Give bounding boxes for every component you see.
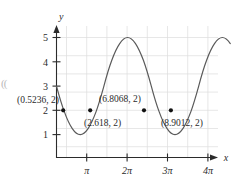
x-tick-label-3pi: 3π	[161, 165, 173, 176]
y-tick-label-2: 2	[43, 105, 48, 116]
data-point-3	[142, 108, 146, 112]
x-tick-label-pi: π	[84, 165, 90, 176]
y-tick-label-1: 1	[43, 129, 48, 140]
sine-curve	[57, 38, 231, 135]
y-axis	[53, 25, 59, 158]
point-label-2: (2.618, 2)	[84, 118, 121, 129]
trig-graph-figure: ((	[0, 0, 238, 185]
point-label-1: (0.5236, 2)	[17, 95, 59, 106]
x-axis	[57, 154, 219, 160]
grid-horizontal-lines	[56, 38, 218, 147]
point-label-3: (6.8068, 2)	[99, 94, 141, 105]
y-axis-tick-labels: 5 4 3 2 1	[43, 32, 48, 140]
data-point-4	[169, 108, 173, 112]
x-axis-tick-labels: π 2π 3π 4π	[84, 165, 214, 176]
y-axis-arrowhead	[53, 25, 59, 33]
x-tick-label-2pi: 2π	[122, 165, 133, 176]
x-tick-label-4pi: 4π	[203, 165, 214, 176]
y-axis-label: y	[58, 11, 64, 22]
x-axis-arrowhead	[210, 154, 218, 160]
point-label-4: (8.9012, 2)	[161, 118, 203, 129]
y-tick-label-5: 5	[43, 32, 48, 43]
left-edge-artifact: ((	[1, 78, 6, 89]
y-tick-label-4: 4	[43, 57, 48, 68]
data-point-2	[88, 108, 92, 112]
x-axis-label: x	[223, 152, 229, 163]
data-point-1	[61, 108, 65, 112]
graph-canvas: 5 4 3 2 1 π 2π 3π 4π y x (0.5236	[0, 0, 238, 185]
y-tick-label-3: 3	[43, 81, 48, 92]
